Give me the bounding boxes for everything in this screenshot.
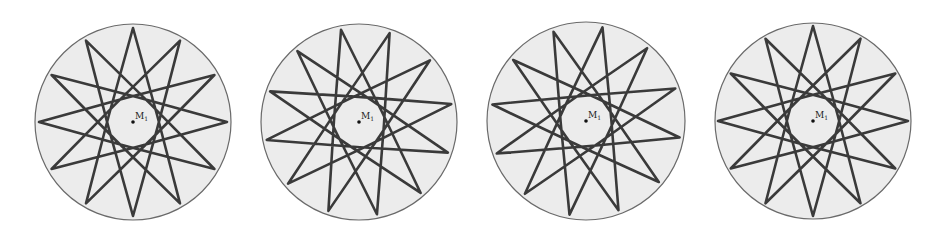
panel-3: M1 (487, 22, 685, 220)
panel-1: M1 (35, 24, 231, 220)
panel-2: M1 (261, 24, 457, 220)
figure-canvas: M1 M1 M1 M1 (0, 0, 943, 236)
panel-4: M1 (715, 23, 911, 219)
